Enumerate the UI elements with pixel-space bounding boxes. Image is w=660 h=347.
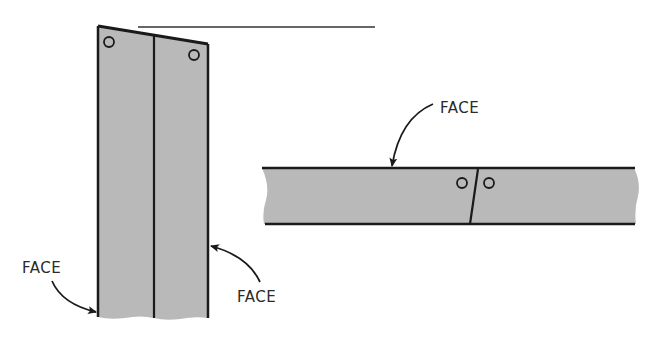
face-label-right: FACE (211, 246, 276, 306)
face-label-left-text: FACE (22, 259, 61, 277)
arrow-icon (52, 281, 96, 312)
horizontal-board (262, 168, 639, 224)
vertical-board (98, 26, 208, 320)
arrow-icon (392, 104, 433, 166)
diagram-canvas: FACE FACE FACE (0, 0, 660, 347)
horizontal-board-body (262, 168, 639, 224)
face-label-left: FACE (22, 259, 96, 312)
arrow-icon (211, 246, 260, 282)
face-label-right-text: FACE (237, 288, 276, 306)
face-label-top-text: FACE (440, 99, 479, 117)
face-label-top: FACE (392, 99, 479, 166)
